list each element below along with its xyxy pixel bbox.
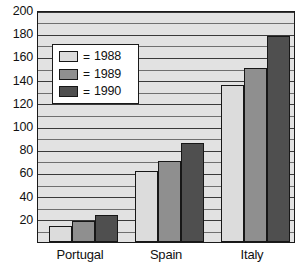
- y-axis-tick-label: 60: [0, 167, 33, 180]
- y-axis-tick-label: 20: [0, 214, 33, 227]
- legend-swatch-1989: [59, 69, 78, 80]
- y-axis: 20018016014012010080604020: [0, 0, 33, 275]
- y-axis-tick-label: 80: [0, 144, 33, 157]
- y-axis-tick-label: 40: [0, 191, 33, 204]
- x-axis-tick-label: Italy: [241, 248, 264, 261]
- legend-swatch-1988: [59, 51, 78, 62]
- legend-item: = 1988: [59, 49, 133, 64]
- bar-italy-1989: [244, 68, 267, 242]
- x-axis-tick-label: Spain: [150, 248, 182, 261]
- bar-portugal-1990: [95, 215, 118, 242]
- legend-label-1988: 1988: [94, 50, 121, 63]
- bar-spain-1989: [158, 161, 181, 242]
- y-axis-tick-label: 120: [0, 98, 33, 111]
- legend-swatch-1990: [59, 86, 78, 97]
- legend-label-1990: 1990: [94, 85, 121, 98]
- legend-item: = 1990: [59, 84, 133, 99]
- y-axis-tick-label: 100: [0, 121, 33, 134]
- bar-italy-1988: [221, 85, 244, 242]
- x-axis-tick-label: Portugal: [57, 248, 104, 261]
- y-axis-tick-label: 140: [0, 75, 33, 88]
- bar-italy-1990: [267, 36, 290, 242]
- bar-portugal-1989: [72, 221, 95, 242]
- bar-portugal-1988: [49, 226, 72, 242]
- legend-separator: =: [83, 86, 90, 98]
- x-axis: PortugalSpainItaly: [37, 248, 295, 270]
- legend-separator: =: [83, 51, 90, 63]
- bar-spain-1990: [181, 143, 204, 242]
- bar-chart: 20018016014012010080604020 = 1988 = 1989…: [0, 0, 304, 275]
- bar-spain-1988: [135, 171, 158, 242]
- legend-separator: =: [83, 68, 90, 80]
- legend-item: = 1989: [59, 67, 133, 82]
- legend-label-1989: 1989: [94, 68, 121, 81]
- y-axis-tick-label: 160: [0, 51, 33, 64]
- legend: = 1988 = 1989 = 1990: [52, 44, 139, 104]
- y-axis-tick-label: 180: [0, 28, 33, 41]
- y-axis-tick-label: 200: [0, 5, 33, 18]
